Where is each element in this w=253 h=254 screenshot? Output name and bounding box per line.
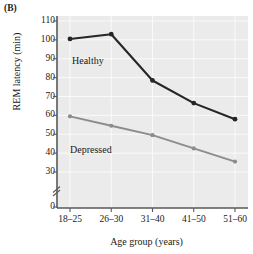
series-annotation-depressed: Depressed	[70, 144, 112, 155]
figure-panel-b: (B) REM latency (min) Age group (years) …	[0, 0, 253, 254]
axis-lines	[57, 16, 248, 208]
tick-marks	[53, 21, 235, 212]
series-annotation-healthy: Healthy	[72, 55, 104, 66]
axes	[0, 0, 253, 254]
